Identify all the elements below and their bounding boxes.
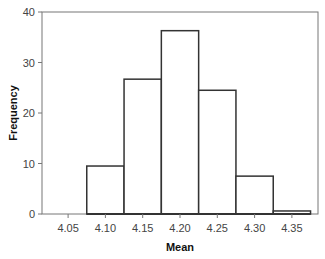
x-tick-label: 4.15 (132, 222, 153, 234)
histogram-chart: 010203040 4.054.104.154.204.254.304.35 M… (0, 0, 325, 259)
y-tick-label: 30 (23, 57, 35, 69)
x-tick-label: 4.35 (281, 222, 302, 234)
x-tick-label: 4.20 (169, 222, 190, 234)
histogram-bar (161, 31, 198, 214)
histogram-bar (124, 79, 161, 214)
x-tick-label: 4.10 (95, 222, 116, 234)
x-tick-label: 4.05 (57, 222, 78, 234)
y-axis-title: Frequency (7, 84, 19, 141)
y-tick-label: 10 (23, 158, 35, 170)
y-tick-label: 0 (29, 208, 35, 220)
y-axis: 010203040 (23, 6, 42, 220)
histogram-bars (87, 31, 311, 214)
x-axis: 4.054.104.154.204.254.304.35 (57, 214, 302, 234)
histogram-bar (199, 90, 236, 214)
x-tick-label: 4.25 (207, 222, 228, 234)
x-tick-label: 4.30 (244, 222, 265, 234)
y-tick-label: 40 (23, 6, 35, 18)
x-axis-title: Mean (166, 241, 194, 253)
histogram-bar (236, 176, 273, 214)
y-tick-label: 20 (23, 107, 35, 119)
histogram-bar (87, 166, 124, 214)
